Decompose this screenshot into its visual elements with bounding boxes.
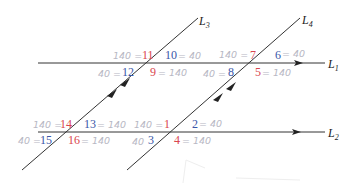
note-angle-13: = 140 bbox=[97, 119, 126, 130]
label-L3: L3 bbox=[198, 14, 210, 30]
note-angle-4: = 140 bbox=[182, 135, 211, 146]
angle-7: 7 bbox=[250, 48, 256, 62]
angle-14: 14 bbox=[60, 117, 72, 131]
note-angle-6: = 40 bbox=[282, 48, 305, 59]
note-angle-12: 40 = bbox=[98, 68, 121, 79]
double-arrow-L3-1 bbox=[107, 89, 117, 98]
angle-12: 12 bbox=[122, 65, 134, 79]
note-angle-3: 40 bbox=[132, 136, 144, 147]
note-angle-2: = 40 bbox=[199, 118, 222, 129]
note-angle-14: 140 = bbox=[33, 119, 62, 130]
angle-13: 13 bbox=[84, 117, 96, 131]
angle-8: 8 bbox=[228, 65, 234, 79]
label-L1: L1 bbox=[327, 57, 339, 73]
diagram-canvas: L3 L4 L1 L2 140 = 11 10 = 40 40 = 12 9 =… bbox=[0, 0, 363, 191]
note-angle-16: = 140 bbox=[81, 135, 110, 146]
angle-11: 11 bbox=[142, 48, 154, 62]
angle-16: 16 bbox=[68, 133, 80, 147]
double-arrow-L3-2 bbox=[120, 78, 130, 87]
angle-3: 3 bbox=[148, 133, 154, 147]
note-angle-1: 140 = bbox=[134, 119, 163, 130]
note-angle-10: = 40 bbox=[178, 50, 201, 61]
label-L4: L4 bbox=[301, 13, 313, 29]
angle-15: 15 bbox=[40, 133, 52, 147]
double-arrow-L4-2 bbox=[226, 82, 236, 91]
note-angle-7: 140 = bbox=[219, 49, 248, 60]
angle-10: 10 bbox=[165, 48, 177, 62]
angle-9: 9 bbox=[150, 65, 156, 79]
note-angle-15: 40 = bbox=[18, 135, 41, 146]
note-angle-8: 40 = bbox=[203, 68, 226, 79]
faint-pencil-marks bbox=[183, 160, 300, 183]
note-angle-11: 140 = bbox=[113, 50, 142, 61]
double-arrow-L4-1 bbox=[213, 93, 223, 102]
angle-2: 2 bbox=[192, 117, 198, 131]
angle-1: 1 bbox=[164, 117, 170, 131]
note-angle-5: = 140 bbox=[262, 67, 291, 78]
angle-6: 6 bbox=[275, 48, 281, 62]
line-L4 bbox=[127, 18, 300, 170]
angle-4: 4 bbox=[174, 133, 180, 147]
note-angle-9: = 140 bbox=[158, 67, 187, 78]
label-L2: L2 bbox=[327, 126, 339, 142]
angle-5: 5 bbox=[255, 65, 261, 79]
